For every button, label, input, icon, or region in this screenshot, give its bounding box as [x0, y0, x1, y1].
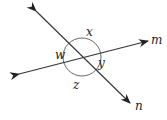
- angle-label-x: x: [86, 25, 93, 39]
- line-label-n: n: [135, 99, 143, 113]
- angle-label-y: y: [97, 56, 105, 70]
- angle-label-w: w: [55, 48, 66, 62]
- intersecting-lines-diagram: x w y z m n: [0, 0, 167, 120]
- line-label-m: m: [151, 33, 162, 47]
- line-m: [19, 41, 148, 74]
- angle-label-z: z: [72, 78, 80, 92]
- line-n: [36, 11, 130, 103]
